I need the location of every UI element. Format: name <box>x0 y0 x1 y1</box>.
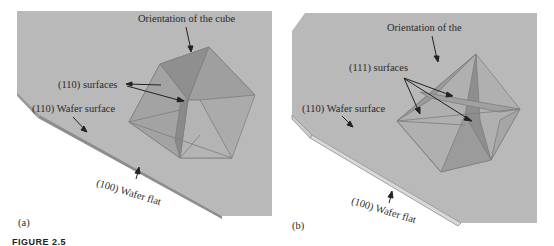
panel-a-wafer-surface-label: (110) Wafer surface <box>32 104 115 115</box>
figure-caption: FIGURE 2.5 <box>12 237 66 246</box>
figure-canvas <box>0 0 554 246</box>
panel-b-wafer-surface-label: (110) Wafer surface <box>302 104 385 115</box>
panel-a-title-label: Orientation of the cube <box>138 14 235 25</box>
panel-b-surface-label: (111) surfaces <box>349 63 408 74</box>
panel-a-label: (a) <box>18 218 30 229</box>
panel-b-label: (b) <box>292 221 304 232</box>
panel-b-title-label: Orientation of the <box>387 23 462 34</box>
panel-a-surface-label: (110) surfaces <box>58 80 117 91</box>
